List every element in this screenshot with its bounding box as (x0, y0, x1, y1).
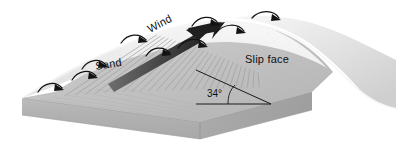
angle-of-repose-label: 34° (207, 88, 222, 99)
dune-diagram-svg: Wind Sand Slip face 34° (0, 0, 397, 144)
dune-diagram-figure: Wind Sand Slip face 34° (0, 0, 397, 144)
slip-face-label: Slip face (245, 53, 289, 65)
